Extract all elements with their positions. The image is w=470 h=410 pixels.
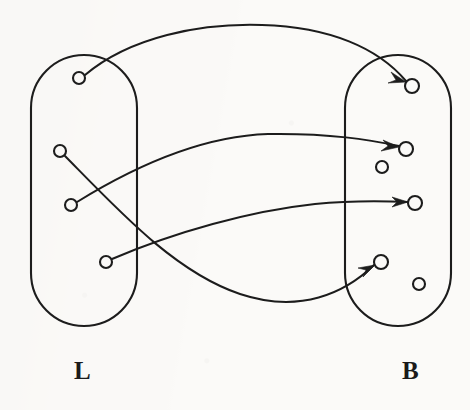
node-l2[interactable]: [54, 145, 66, 157]
node-l3[interactable]: [65, 199, 77, 211]
arrow-head-b5: [358, 265, 375, 277]
edge-l2-b5: [65, 156, 374, 302]
node-l4[interactable]: [100, 256, 112, 268]
node-l1[interactable]: [73, 72, 85, 84]
left-set-nodes: [54, 72, 112, 268]
right-set-nodes: [374, 79, 425, 290]
figure-canvas: L B: [0, 0, 470, 410]
left-set-label: L: [74, 358, 91, 383]
edge-l4-b4: [112, 201, 408, 259]
right-set-outline: [345, 55, 451, 326]
node-b6[interactable]: [413, 278, 425, 290]
edge-l3-b2: [77, 134, 399, 202]
node-b1[interactable]: [405, 79, 419, 93]
right-set-label: B: [402, 358, 419, 383]
node-b2[interactable]: [399, 142, 413, 156]
set-outlines: [31, 55, 451, 326]
arrow-head-b2: [381, 140, 399, 151]
node-b4[interactable]: [408, 196, 422, 210]
node-b3[interactable]: [376, 161, 388, 173]
node-b5[interactable]: [374, 255, 388, 269]
left-set-outline: [31, 55, 137, 326]
mapping-diagram-svg: [0, 0, 470, 410]
